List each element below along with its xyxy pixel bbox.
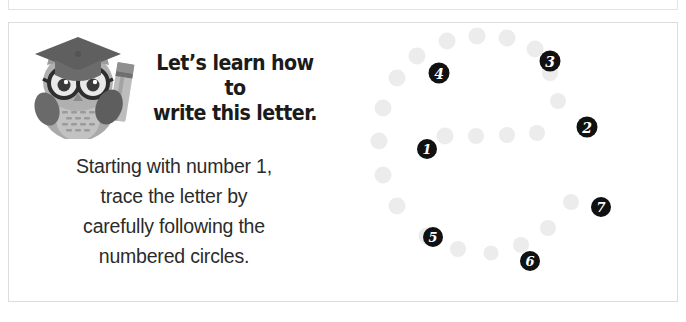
trace-guide-dot xyxy=(529,125,545,141)
trace-guide-dot xyxy=(409,48,426,65)
trace-guide-dot xyxy=(499,127,515,143)
worksheet-heading: Let’s learn how to write this letter. xyxy=(144,51,326,126)
trace-number-2[interactable]: 2 xyxy=(577,117,598,138)
trace-guide-dot xyxy=(499,30,516,47)
trace-number-label: 3 xyxy=(545,54,555,68)
trace-guide-dot xyxy=(375,100,392,117)
clipped-top-panel xyxy=(8,0,678,10)
trace-guide-dot xyxy=(563,194,579,210)
trace-number-1[interactable]: 1 xyxy=(417,139,437,159)
trace-number-label: 2 xyxy=(582,120,592,134)
trace-guide-dot xyxy=(439,33,456,50)
owl-graduate-with-pencil-icon xyxy=(21,27,141,139)
worksheet-card: Let’s learn how to write this letter. St… xyxy=(8,22,678,302)
instruction-line-1: Starting with number 1, xyxy=(19,151,329,181)
worksheet-instructions: Starting with number 1, trace the letter… xyxy=(19,151,329,271)
trace-number-7[interactable]: 7 xyxy=(591,197,611,217)
trace-number-label: 4 xyxy=(434,66,444,80)
trace-guide-dot xyxy=(484,246,499,261)
instruction-column: Let’s learn how to write this letter. St… xyxy=(9,23,339,303)
clipped-top-panel-content xyxy=(127,0,471,1)
trace-number-3[interactable]: 3 xyxy=(540,51,561,72)
trace-guide-dot xyxy=(389,70,406,87)
trace-guide-dot xyxy=(540,220,556,236)
heading-line-2: write this letter. xyxy=(153,101,317,125)
instruction-line-2: trace the letter by xyxy=(19,181,329,211)
heading-line-1: Let’s learn how to xyxy=(156,51,313,100)
trace-number-label: 7 xyxy=(596,201,605,214)
trace-guide-dot xyxy=(469,28,486,45)
trace-guide-dot xyxy=(437,128,454,145)
trace-guide-dot xyxy=(550,93,566,109)
worksheet-screen: Let’s learn how to write this letter. St… xyxy=(0,0,686,322)
trace-number-label: 6 xyxy=(525,255,534,268)
trace-guide-dot xyxy=(375,167,392,184)
trace-number-6[interactable]: 6 xyxy=(520,251,540,271)
trace-guide-dot xyxy=(468,128,484,144)
trace-number-4[interactable]: 4 xyxy=(429,63,450,84)
trace-guide-dot xyxy=(450,241,466,257)
trace-number-label: 1 xyxy=(422,143,431,156)
trace-guide-dot xyxy=(371,133,388,150)
trace-number-label: 5 xyxy=(428,231,437,244)
trace-guide-dot xyxy=(389,198,406,215)
instruction-line-4: numbered circles. xyxy=(19,241,329,271)
instruction-line-3: carefully following the xyxy=(19,211,329,241)
letter-tracing-guide[interactable]: 1234567 xyxy=(339,23,679,303)
trace-number-5[interactable]: 5 xyxy=(423,227,443,247)
